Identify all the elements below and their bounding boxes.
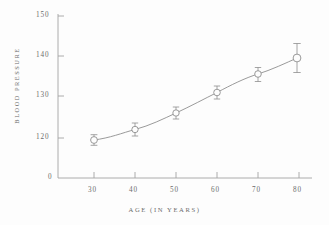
chart-figure: 150 140 130 120 0 30 40 50 60 70 80 BLOO… — [0, 0, 329, 225]
x-tick-label-40: 40 — [129, 186, 138, 194]
y-tick-label-120: 120 — [36, 133, 49, 141]
y-axis-title: BLOOD PRESSURE — [13, 36, 20, 136]
data-point — [91, 137, 98, 144]
data-point — [255, 71, 262, 78]
x-tick-label-30: 30 — [88, 186, 97, 194]
x-tick-label-60: 60 — [211, 186, 220, 194]
data-point — [173, 110, 179, 116]
y-tick-label-130: 130 — [36, 91, 49, 99]
data-point-markers — [91, 54, 301, 143]
y-axis-origin-label: 0 — [48, 173, 53, 181]
y-tick-marks — [58, 16, 64, 138]
data-point — [132, 126, 138, 132]
plot-canvas — [0, 0, 329, 225]
y-tick-label-150: 150 — [36, 11, 49, 19]
x-tick-label-70: 70 — [252, 186, 261, 194]
data-line-series — [94, 58, 297, 140]
x-tick-label-80: 80 — [293, 186, 302, 194]
error-bars-group — [91, 44, 301, 146]
x-tick-label-50: 50 — [170, 186, 179, 194]
x-tick-marks — [94, 172, 299, 178]
data-point — [293, 54, 301, 62]
y-tick-label-140: 140 — [36, 51, 49, 59]
x-axis-title: AGE (IN YEARS) — [0, 206, 329, 213]
data-point — [214, 89, 221, 96]
